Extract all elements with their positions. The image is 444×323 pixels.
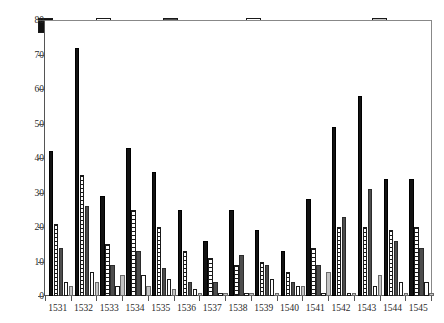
x-axis-tick-label: 1531: [48, 303, 67, 313]
bar-leases-1535: [157, 227, 161, 296]
bar-total-1540: [281, 251, 285, 296]
x-axis-tick-label: 1542: [331, 303, 350, 313]
y-axis-tick-mark: [38, 89, 44, 90]
bar-residence-1536: [188, 282, 192, 296]
y-axis-tick-mark: [38, 262, 44, 263]
bar-buying-and-selling-1543: [373, 286, 377, 296]
bar-chart: Total Leases Residence Buying and Sellin…: [0, 0, 444, 323]
bar-total-1545: [409, 179, 413, 296]
bar-buying-and-selling-1538: [244, 293, 248, 296]
bar-leases-1544: [389, 230, 393, 296]
bar-other-1544: [404, 293, 408, 296]
bar-leases-1541: [311, 248, 315, 296]
y-axis-tick-mark: [38, 158, 44, 159]
bar-leases-1533: [105, 244, 109, 296]
bar-residence-1542: [342, 217, 346, 296]
bar-residence-1534: [136, 251, 140, 296]
x-axis-tick-mark: [251, 296, 252, 301]
bar-buying-and-selling-1534: [141, 275, 145, 296]
x-axis-tick-label: 1538: [229, 303, 248, 313]
x-axis-tick-mark: [174, 296, 175, 301]
bar-buying-and-selling-1531: [64, 282, 68, 296]
x-axis-tick-mark: [302, 296, 303, 301]
x-axis-tick-label: 1539: [254, 303, 273, 313]
x-axis-tick-mark: [354, 296, 355, 301]
bar-total-1537: [203, 241, 207, 296]
bar-buying-and-selling-1533: [115, 286, 119, 296]
bar-total-1532: [75, 48, 79, 296]
bar-leases-1545: [414, 227, 418, 296]
bar-residence-1538: [239, 255, 243, 296]
bar-other-1536: [198, 293, 202, 296]
bar-residence-1541: [316, 265, 320, 296]
bar-total-1539: [255, 230, 259, 296]
bar-other-1543: [378, 275, 382, 296]
x-axis-tick-label: 1541: [306, 303, 325, 313]
bar-other-1540: [301, 286, 305, 296]
bar-leases-1538: [234, 265, 238, 296]
bar-leases-1537: [208, 258, 212, 296]
x-axis-tick-label: 1536: [177, 303, 196, 313]
bar-leases-1532: [80, 175, 84, 296]
x-axis-tick-mark: [380, 296, 381, 301]
bar-total-1538: [229, 210, 233, 296]
bar-buying-and-selling-1544: [399, 282, 403, 296]
x-axis-tick-label: 1537: [203, 303, 222, 313]
bar-buying-and-selling-1539: [270, 279, 274, 296]
x-axis-tick-label: 1535: [151, 303, 170, 313]
bar-residence-1544: [394, 241, 398, 296]
x-axis-tick-mark: [225, 296, 226, 301]
bar-other-1539: [275, 293, 279, 296]
bar-buying-and-selling-1542: [347, 293, 351, 296]
bar-total-1544: [384, 179, 388, 296]
x-axis-tick-label: 1540: [280, 303, 299, 313]
x-axis-tick-mark: [122, 296, 123, 301]
bar-total-1536: [178, 210, 182, 296]
x-axis-tick-mark: [277, 296, 278, 301]
y-axis-tick-mark: [38, 124, 44, 125]
y-axis-tick-mark: [38, 193, 44, 194]
bar-leases-1542: [337, 227, 341, 296]
bar-leases-1531: [54, 224, 58, 296]
bar-total-1541: [306, 199, 310, 296]
bar-other-1531: [69, 286, 73, 296]
x-axis-tick-mark: [199, 296, 200, 301]
x-axis-tick-label: 1532: [74, 303, 93, 313]
bar-other-1542: [352, 293, 356, 296]
x-axis-tick-mark: [431, 296, 432, 301]
bar-buying-and-selling-1536: [193, 289, 197, 296]
bar-residence-1537: [213, 282, 217, 296]
bar-total-1543: [358, 96, 362, 296]
bar-residence-1532: [85, 206, 89, 296]
x-axis-tick-label: 1545: [409, 303, 428, 313]
bar-other-1534: [146, 286, 150, 296]
bar-buying-and-selling-1541: [321, 293, 325, 296]
bar-other-1541: [326, 272, 330, 296]
x-axis-tick-mark: [328, 296, 329, 301]
bar-total-1531: [49, 151, 53, 296]
bar-leases-1540: [286, 272, 290, 296]
bar-leases-1536: [183, 251, 187, 296]
bar-residence-1543: [368, 189, 372, 296]
y-axis-tick-mark: [38, 296, 44, 297]
bar-residence-1531: [59, 248, 63, 296]
x-axis-tick-mark: [71, 296, 72, 301]
bar-residence-1540: [291, 282, 295, 296]
bar-total-1534: [126, 148, 130, 296]
bar-residence-1539: [265, 265, 269, 296]
bar-leases-1534: [131, 210, 135, 296]
bar-residence-1533: [110, 265, 114, 296]
x-axis-tick-label: 1534: [126, 303, 145, 313]
bar-other-1535: [172, 289, 176, 296]
bar-buying-and-selling-1537: [218, 293, 222, 296]
bar-other-1533: [120, 275, 124, 296]
bar-leases-1539: [260, 262, 264, 297]
x-axis-tick-label: 1544: [383, 303, 402, 313]
x-axis-tick-mark: [148, 296, 149, 301]
bar-total-1533: [100, 196, 104, 296]
x-axis-tick-mark: [96, 296, 97, 301]
bar-total-1535: [152, 172, 156, 296]
bar-total-1542: [332, 127, 336, 296]
x-axis-tick-label: 1533: [100, 303, 119, 313]
x-axis-tick-label: 1543: [357, 303, 376, 313]
